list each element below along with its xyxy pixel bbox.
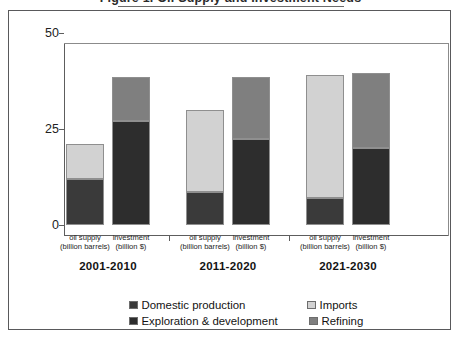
bar-caption-line1: investment [215,233,287,242]
bar-caption: investment(billion $) [335,233,407,251]
legend-item: Refining [309,315,363,327]
bar-caption: investment(billion $) [95,233,167,251]
stacked-bar [112,77,150,225]
legend-swatch-icon [309,317,318,326]
legend-swatch-icon [129,301,138,310]
bar-segment [112,77,150,121]
chart-legend: Domestic productionImportsExploration & … [129,299,399,333]
group-label-2021-2030: 2021-2030 [288,260,408,272]
bar-caption: investment(billion $) [215,233,287,251]
plot-right-rule [448,43,449,236]
legend-label: Imports [320,299,358,311]
bar-segment [232,77,270,138]
bar-segment [66,144,104,179]
bar-segment [306,198,344,225]
stacked-bar [352,73,390,225]
stacked-bar [306,75,344,225]
chart-outer-frame: 02550 oil supply(billion barrels)investm… [8,10,451,330]
group-label-2011-2020: 2011-2020 [168,260,288,272]
bar-segment [352,73,390,148]
bar-segment [352,148,390,225]
bar-caption-line1: investment [335,233,407,242]
plot-top-rule [64,43,449,44]
bar-segment [186,110,224,193]
bar-segment [66,179,104,225]
legend-item: Exploration & development [129,315,278,327]
legend-label: Domestic production [142,299,246,311]
bar-segment [186,192,224,225]
legend-label: Exploration & development [142,315,278,327]
stacked-bar [232,77,270,225]
y-axis-tick-label: 0 [25,218,59,232]
legend-item: Domestic production [129,299,245,311]
group-label-2001-2010: 2001-2010 [48,260,168,272]
bar-caption-line2: (billion $) [335,242,407,251]
bar-caption-line2: (billion $) [215,242,287,251]
legend-label: Refining [322,315,364,327]
stacked-bar [66,144,104,225]
chart-title-text: Figure 1. Oil Supply and Investment Need… [100,0,362,5]
bar-segment [306,75,344,198]
bar-caption-line1: investment [95,233,167,242]
bar-segment [112,121,150,225]
bar-caption-line2: (billion $) [95,242,167,251]
y-axis-tick-mark [59,33,64,34]
legend-swatch-icon [307,301,316,310]
bar-segment [232,139,270,225]
title-underline [118,6,344,7]
y-axis-tick-mark [59,225,64,226]
y-axis-tick-label: 25 [25,122,59,136]
stacked-bar [186,110,224,225]
y-axis-tick-mark [59,129,64,130]
legend-item: Imports [307,299,357,311]
legend-swatch-icon [129,317,138,326]
chart-figure: Figure 1. Oil Supply and Investment Need… [0,0,461,339]
y-axis-tick-label: 50 [25,26,59,40]
